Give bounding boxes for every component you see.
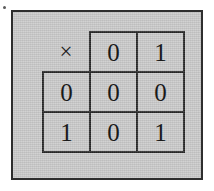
column-header-1: 1 bbox=[137, 32, 184, 72]
column-header-0: 0 bbox=[90, 32, 137, 72]
product-cell-1-1: 1 bbox=[137, 112, 184, 152]
table-row: 0 0 0 bbox=[43, 72, 184, 112]
multiplication-operator-cell: × bbox=[43, 32, 90, 72]
figure-frame: × 0 1 0 0 0 1 0 1 bbox=[11, 10, 203, 180]
product-cell-1-0: 0 bbox=[90, 112, 137, 152]
table-row: 1 0 1 bbox=[43, 112, 184, 152]
row-header-1: 1 bbox=[43, 112, 90, 152]
table-row-header: × 0 1 bbox=[43, 32, 184, 72]
multiplication-table: × 0 1 0 0 0 1 0 1 bbox=[42, 31, 185, 153]
product-cell-0-0: 0 bbox=[90, 72, 137, 112]
row-header-0: 0 bbox=[43, 72, 90, 112]
product-cell-0-1: 0 bbox=[137, 72, 184, 112]
ink-speck-artifact bbox=[3, 6, 6, 9]
